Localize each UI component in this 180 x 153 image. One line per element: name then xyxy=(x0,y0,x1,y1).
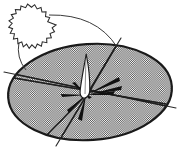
connector-arc-upper xyxy=(49,15,117,47)
serrated-circle xyxy=(9,4,56,48)
figure-canvas: Hatched ellipse with radiating chords, c… xyxy=(0,0,180,153)
serrated-circle-shape xyxy=(9,4,56,48)
illustration-svg xyxy=(0,0,180,153)
